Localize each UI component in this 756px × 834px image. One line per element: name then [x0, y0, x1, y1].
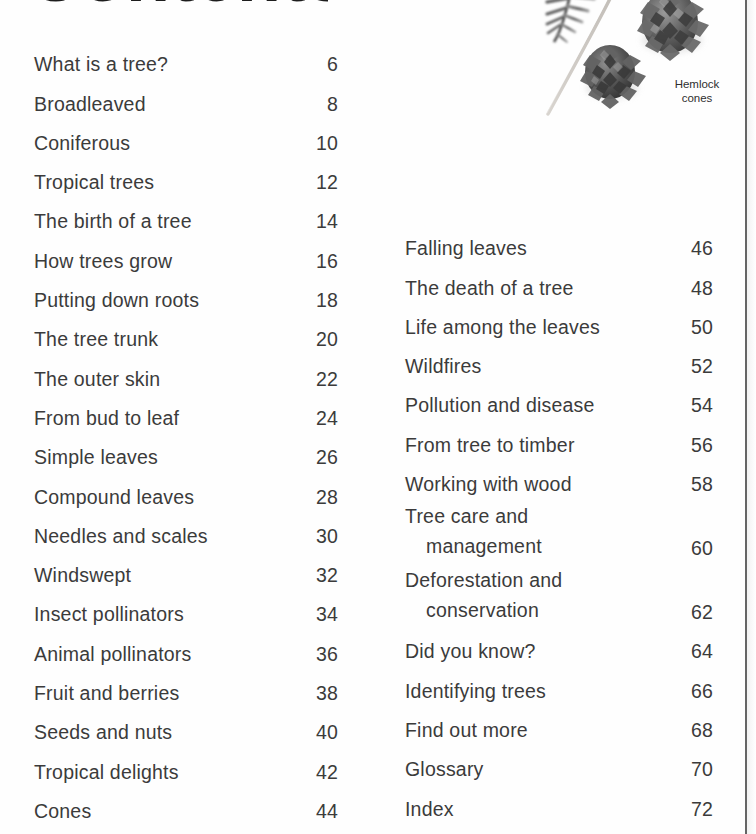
toc-entry[interactable]: Working with wood58	[405, 458, 713, 497]
toc-entry-page-number: 46	[687, 236, 713, 261]
toc-entry-page-number: 32	[312, 563, 338, 588]
toc-entry-page-number: 24	[312, 406, 338, 431]
page-title-text: Contents	[28, 0, 328, 16]
toc-entry-label: Pollution and disease	[405, 393, 595, 418]
toc-entry-page-number: 38	[312, 681, 338, 706]
toc-entry-label: Cones	[34, 799, 91, 824]
toc-entry-label: Fruit and berries	[34, 681, 179, 706]
toc-entry-page-number: 22	[312, 367, 338, 392]
toc-entry[interactable]: Tropical trees12	[34, 156, 338, 195]
toc-entry-label: What is a tree?	[34, 52, 168, 77]
toc-entry-label: Broadleaved	[34, 92, 146, 117]
toc-entry[interactable]: Fruit and berries38	[34, 667, 338, 706]
toc-entry-page-number: 64	[687, 639, 713, 664]
toc-entry-page-number: 56	[687, 433, 713, 458]
toc-right-column: Falling leaves46The death of a tree48Lif…	[405, 222, 713, 822]
toc-entry[interactable]: Index72	[405, 782, 713, 821]
toc-entry-label: Working with wood	[405, 472, 572, 497]
book-page: Contents	[0, 0, 756, 834]
toc-entry-page-number: 10	[312, 131, 338, 156]
toc-entry-label: How trees grow	[34, 249, 172, 274]
toc-entry-page-number: 54	[687, 393, 713, 418]
toc-entry[interactable]: The birth of a tree14	[34, 195, 338, 234]
toc-entry-label: The outer skin	[34, 367, 160, 392]
toc-entry-label: Falling leaves	[405, 236, 527, 261]
toc-entry[interactable]: The death of a tree48	[405, 261, 713, 300]
toc-left-column: What is a tree?6Broadleaved8Coniferous10…	[34, 38, 338, 824]
toc-entry-page-number: 42	[312, 760, 338, 785]
toc-entry-page-number: 20	[312, 327, 338, 352]
toc-entry[interactable]: Life among the leaves50	[405, 301, 713, 340]
toc-entry[interactable]: From tree to timber56	[405, 418, 713, 457]
toc-entry-label: From tree to timber	[405, 433, 575, 458]
toc-entry-label: Wildfires	[405, 354, 482, 379]
toc-entry-label: Life among the leaves	[405, 315, 600, 340]
toc-entry[interactable]: Windswept32	[34, 549, 338, 588]
toc-entry-page-number: 14	[312, 209, 338, 234]
toc-entry[interactable]: Glossary70	[405, 743, 713, 782]
toc-entry-label: Insect pollinators	[34, 602, 184, 627]
toc-entry-label: Animal pollinators	[34, 642, 192, 667]
toc-entry[interactable]: Wildfires52	[405, 340, 713, 379]
toc-entry-page-number: 50	[687, 315, 713, 340]
toc-entry-label: Did you know?	[405, 639, 536, 664]
toc-entry-page-number: 8	[312, 92, 338, 117]
toc-entry-label-continuation: management	[405, 531, 542, 561]
toc-entry-label: Deforestation andconservation	[405, 565, 562, 625]
toc-entry[interactable]: The outer skin22	[34, 352, 338, 391]
toc-entry-page-number: 68	[687, 718, 713, 743]
toc-entry-page-number: 6	[312, 52, 338, 77]
toc-entry-label: Tree care andmanagement	[405, 501, 542, 561]
toc-entry-page-number: 30	[312, 524, 338, 549]
page-title: Contents	[28, 0, 328, 16]
toc-entry[interactable]: Pollution and disease54	[405, 379, 713, 418]
toc-entry[interactable]: From bud to leaf24	[34, 392, 338, 431]
toc-entry[interactable]: Tropical delights42	[34, 745, 338, 784]
toc-entry-page-number: 72	[687, 797, 713, 822]
toc-entry[interactable]: What is a tree?6	[34, 38, 338, 77]
toc-entry[interactable]: How trees grow16	[34, 234, 338, 273]
toc-entry[interactable]: Falling leaves46	[405, 222, 713, 261]
toc-entry[interactable]: Needles and scales30	[34, 510, 338, 549]
toc-entry-page-number: 60	[687, 536, 713, 561]
caption-line-2: cones	[682, 92, 713, 104]
toc-entry[interactable]: Coniferous10	[34, 117, 338, 156]
toc-entry-page-number: 28	[312, 485, 338, 510]
toc-entry[interactable]: Putting down roots18	[34, 274, 338, 313]
toc-entry-page-number: 70	[687, 757, 713, 782]
toc-entry[interactable]: Cones44	[34, 785, 338, 824]
toc-entry-label: Coniferous	[34, 131, 130, 156]
toc-entry-label: From bud to leaf	[34, 406, 179, 431]
toc-entry[interactable]: Compound leaves28	[34, 470, 338, 509]
toc-entry-page-number: 66	[687, 679, 713, 704]
toc-entry[interactable]: Did you know?64	[405, 625, 713, 664]
toc-entry-page-number: 18	[312, 288, 338, 313]
toc-entry[interactable]: Seeds and nuts40	[34, 706, 338, 745]
page-gutter-shade	[747, 0, 756, 834]
toc-entry-page-number: 16	[312, 249, 338, 274]
toc-entry-page-number: 40	[312, 720, 338, 745]
hemlock-branch-and-cones-photo	[520, 0, 742, 124]
toc-entry-label: Seeds and nuts	[34, 720, 172, 745]
toc-entry[interactable]: Broadleaved8	[34, 77, 338, 116]
toc-entry[interactable]: Insect pollinators34	[34, 588, 338, 627]
toc-entry[interactable]: Deforestation andconservation62	[405, 561, 713, 625]
toc-entry[interactable]: Animal pollinators36	[34, 627, 338, 666]
toc-entry-label-continuation: conservation	[405, 595, 562, 625]
toc-entry-label: Index	[405, 797, 454, 822]
toc-entry[interactable]: Simple leaves26	[34, 431, 338, 470]
toc-entry[interactable]: Find out more68	[405, 704, 713, 743]
toc-entry[interactable]: Identifying trees66	[405, 664, 713, 703]
toc-entry-page-number: 62	[687, 600, 713, 625]
toc-entry-label: The birth of a tree	[34, 209, 192, 234]
toc-entry-page-number: 12	[312, 170, 338, 195]
hemlock-cones-caption: Hemlock cones	[663, 78, 731, 105]
toc-entry-page-number: 48	[687, 276, 713, 301]
toc-entry-label: The tree trunk	[34, 327, 158, 352]
toc-entry-label: The death of a tree	[405, 276, 574, 301]
toc-entry[interactable]: The tree trunk20	[34, 313, 338, 352]
toc-entry-page-number: 52	[687, 354, 713, 379]
toc-entry-label: Simple leaves	[34, 445, 158, 470]
page-gutter-line	[745, 0, 747, 834]
toc-entry[interactable]: Tree care andmanagement60	[405, 497, 713, 561]
